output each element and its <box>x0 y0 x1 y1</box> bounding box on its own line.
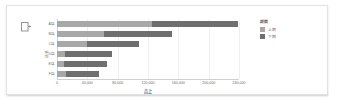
legend-label: 上期 <box>268 27 276 32</box>
x-axis-tick-label: 0 <box>56 81 58 85</box>
y-axis-tick-label: F店 <box>9 71 55 77</box>
legend-item[interactable]: 上期 <box>260 27 300 32</box>
gridline <box>118 19 119 79</box>
legend: 期間 上期下期 <box>260 19 300 42</box>
bar-group[interactable] <box>57 71 239 77</box>
y-axis-tick-label: E店 <box>9 61 55 67</box>
y-axis-tick-label: B店 <box>9 31 55 37</box>
bar-segment[interactable] <box>65 51 112 57</box>
legend-swatch <box>260 34 265 39</box>
x-axis-title: 売上 <box>57 88 239 94</box>
gridline <box>87 19 88 79</box>
x-axis-line <box>57 79 239 80</box>
bar-segment[interactable] <box>57 51 65 57</box>
gridline <box>178 19 179 79</box>
bar-segment[interactable] <box>87 41 139 47</box>
bar-segment[interactable] <box>57 61 64 67</box>
bar-group[interactable] <box>57 31 239 37</box>
x-axis-tick-label: 200,000 <box>202 81 215 85</box>
y-axis-tick-label: A店 <box>9 21 55 27</box>
legend-swatch <box>260 27 265 32</box>
x-axis-tick-label: 240,000 <box>233 81 246 85</box>
bar-group[interactable] <box>57 21 239 27</box>
legend-item[interactable]: 下期 <box>260 34 300 39</box>
x-axis-tick-label: 80,000 <box>112 81 123 85</box>
y-axis-tick-labels: A店B店C店D店E店F店 <box>7 19 55 79</box>
gridline <box>239 19 240 79</box>
legend-items: 上期下期 <box>260 27 300 40</box>
bar-segment[interactable] <box>64 61 107 67</box>
legend-label: 下期 <box>268 34 276 39</box>
legend-title: 期間 <box>260 19 300 24</box>
gridline <box>209 19 210 79</box>
chart-card: 店名 A店B店C店D店E店F店 040,00080,000120,000160,… <box>6 5 328 95</box>
plot-area <box>57 19 239 79</box>
bar-segment[interactable] <box>57 31 104 37</box>
bar-segment[interactable] <box>152 21 238 27</box>
x-axis-tick-label: 160,000 <box>172 81 185 85</box>
y-axis-line <box>57 19 58 79</box>
x-axis-tick-label: 40,000 <box>82 81 93 85</box>
card-shadow <box>8 95 329 97</box>
bar-segment[interactable] <box>57 21 152 27</box>
bar-segment[interactable] <box>57 41 87 47</box>
y-axis-tick-label: C店 <box>9 41 55 47</box>
bar-segment[interactable] <box>57 71 66 77</box>
x-axis-tick-label: 120,000 <box>142 81 155 85</box>
bar-segment[interactable] <box>104 31 171 37</box>
bar-group[interactable] <box>57 51 239 57</box>
bar-segment[interactable] <box>66 71 99 77</box>
gridline <box>148 19 149 79</box>
bar-group[interactable] <box>57 41 239 47</box>
bar-group[interactable] <box>57 61 239 67</box>
y-axis-tick-label: D店 <box>9 51 55 57</box>
